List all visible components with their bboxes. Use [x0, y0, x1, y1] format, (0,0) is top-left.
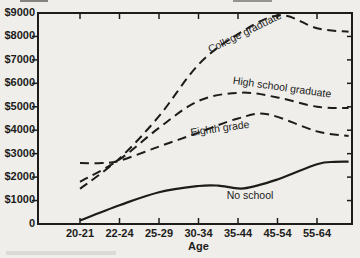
x-tick-label: 30-34 [184, 227, 213, 239]
x-tick-label: 35-44 [224, 227, 253, 239]
chart-canvas: $9000$8000$7000$6000$5000$4000$3000$2000… [0, 0, 360, 258]
x-tick-label: 20-21 [66, 227, 94, 239]
income-by-age-education-chart: $9000$8000$7000$6000$5000$4000$3000$2000… [0, 0, 360, 258]
x-axis-title: Age [188, 240, 209, 252]
series-label-no-school: No school [227, 189, 274, 201]
y-tick-label: $5000 [4, 100, 35, 112]
y-tick-label: $8000 [4, 29, 35, 41]
x-tick-label: 45-54 [263, 227, 292, 239]
y-tick-label: 0 [29, 217, 35, 229]
series-line-eighth-grade [80, 114, 349, 164]
y-tick-label: $7000 [4, 53, 35, 65]
y-tick-label: $2000 [4, 170, 35, 182]
plot-frame [38, 13, 352, 224]
x-tick-label: 55-64 [303, 227, 332, 239]
x-tick-label: 22-24 [105, 227, 134, 239]
series-label-high-school-graduate: High school graduate [232, 74, 332, 100]
x-tick-label: 25-29 [145, 227, 173, 239]
y-tick-label: $1000 [4, 193, 35, 205]
series-line-no-school [80, 162, 349, 221]
y-tick-label: $9000 [4, 6, 35, 18]
y-tick-label: $3000 [4, 147, 35, 159]
y-tick-label: $4000 [4, 123, 35, 135]
series-label-college-graduate: College graduate [206, 9, 283, 55]
series-label-eighth-grade: Eighth grade [190, 118, 251, 138]
y-tick-label: $6000 [4, 76, 35, 88]
